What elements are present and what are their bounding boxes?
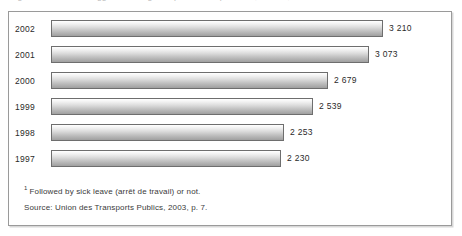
bar-chart-plot-area: 2002 3 210 2001 3 073 2000 2 679 (9, 12, 453, 172)
bar-value-label: 2 253 (290, 124, 313, 141)
bar-value-label: 3 073 (375, 46, 398, 63)
bar (51, 46, 369, 63)
bar-category-label: 2000 (15, 68, 49, 94)
bar-category-label: 2001 (15, 42, 49, 68)
table-row: 1998 2 253 (9, 120, 453, 146)
table-row: 2002 3 210 (9, 16, 453, 42)
bar-category-label: 1997 (15, 146, 49, 172)
footnote-marker: 1 (24, 185, 28, 191)
figure-footnote: 1Followed by sick leave (arrêt de travai… (24, 185, 200, 196)
figure-source: Source: Union des Transports Publics, 20… (24, 203, 207, 212)
bar (51, 98, 313, 115)
table-row: 1999 2 539 (9, 94, 453, 120)
bar-track: 2 539 (51, 94, 449, 120)
figure-notes: 1Followed by sick leave (arrêt de travai… (9, 172, 453, 227)
bar (51, 150, 281, 167)
bar-value-label: 2 230 (287, 150, 310, 167)
table-row: 2000 2 679 (9, 68, 453, 94)
bar-category-label: 1998 (15, 120, 49, 146)
bar (51, 20, 383, 37)
figure-root: Figure 1. Number of aggressions against … (0, 0, 462, 236)
bar-track: 2 253 (51, 120, 449, 146)
bar-track: 2 679 (51, 68, 449, 94)
bar-track: 3 210 (51, 16, 449, 42)
footnote-text: Followed by sick leave (arrêt de travail… (30, 187, 201, 196)
table-row: 1997 2 230 (9, 146, 453, 172)
figure-caption: Figure 1. Number of aggressions against … (10, 0, 450, 3)
bar-category-label: 2002 (15, 16, 49, 42)
bar (51, 124, 284, 141)
table-row: 2001 3 073 (9, 42, 453, 68)
figure-panel: 2002 3 210 2001 3 073 2000 2 679 (8, 11, 452, 226)
bar-value-label: 3 210 (389, 20, 412, 37)
bar-value-label: 2 539 (319, 98, 342, 115)
bar-value-label: 2 679 (334, 72, 357, 89)
bar (51, 72, 328, 89)
bar-category-label: 1999 (15, 94, 49, 120)
bar-track: 3 073 (51, 42, 449, 68)
bar-track: 2 230 (51, 146, 449, 172)
